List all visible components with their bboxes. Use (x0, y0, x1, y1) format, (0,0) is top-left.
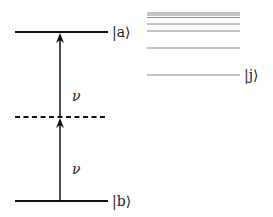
level-a-label: |a⟩ (112, 24, 131, 41)
level-b-label: |b⟩ (112, 193, 131, 210)
photon-label-upper: ν (72, 88, 81, 104)
photon-label-lower: ν (72, 161, 81, 177)
two-photon-diagram: |a⟩ |b⟩ ν ν |j⟩ (0, 0, 273, 217)
state-manifold-j (147, 13, 240, 75)
level-j-label: |j⟩ (244, 67, 259, 84)
